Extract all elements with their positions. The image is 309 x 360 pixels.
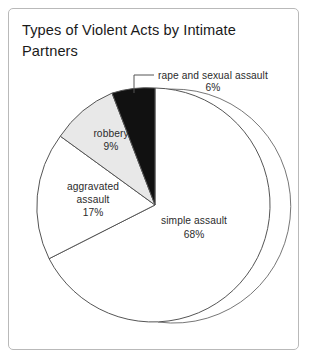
- slice-label-simple-assault: simple assault: [161, 215, 227, 226]
- slice-label-aggravated-assault: aggravated: [67, 181, 119, 192]
- slice-value-simple-assault: 68%: [184, 229, 205, 240]
- pie-chart: rape and sexual assault 6% robbery 9% ag…: [0, 0, 309, 360]
- slice-value-robbery: 9%: [104, 141, 119, 152]
- slice-value-aggravated-assault: 17%: [83, 207, 104, 218]
- slice-label-robbery: robbery: [93, 128, 129, 139]
- slice-label-aggravated-assault-line2: assault: [77, 194, 110, 205]
- chart-page: Types of Violent Acts by Intimate Partne…: [0, 0, 309, 360]
- callout-value-rape-and-sexual-assault: 6%: [206, 82, 221, 93]
- callout-label-rape-and-sexual-assault: rape and sexual assault: [158, 70, 268, 81]
